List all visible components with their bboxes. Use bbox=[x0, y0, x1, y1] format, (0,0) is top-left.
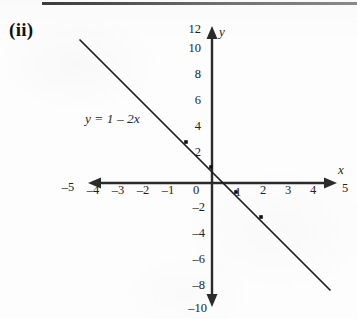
equation-annotation: y = 1 – 2x bbox=[83, 111, 140, 126]
x-tick-label: 2 bbox=[260, 183, 266, 197]
x-tick-label: –4 bbox=[86, 183, 100, 197]
x-tick-label: –2 bbox=[136, 183, 150, 197]
y-tick-label: –2 bbox=[192, 200, 206, 214]
y-tick-label: 10 bbox=[189, 41, 202, 55]
data-point-marker bbox=[234, 190, 238, 194]
y-tick-label: 12 bbox=[189, 22, 202, 36]
x-tick-label: 5 bbox=[342, 181, 348, 195]
x-tick-label: 3 bbox=[285, 183, 291, 197]
y-tick-label: –10 bbox=[187, 301, 207, 315]
coordinate-plot: –5 –4 –3 –2 –1 0 1 2 3 4 5 12 10 8 6 4 2… bbox=[0, 0, 357, 319]
x-tick-label: –3 bbox=[111, 183, 125, 197]
y-tick-label: 4 bbox=[195, 119, 202, 133]
x-tick-label: –5 bbox=[61, 180, 75, 194]
y-tick-label: –8 bbox=[192, 278, 206, 292]
x-tick-label: –1 bbox=[161, 183, 175, 197]
x-tick-label-origin: 0 bbox=[193, 183, 199, 197]
data-point-marker bbox=[184, 140, 188, 144]
plotted-line bbox=[80, 40, 330, 290]
graph-figure: (ii) –5 –4 –3 –2 –1 0 1 2 3 4 5 12 10 8 … bbox=[0, 0, 357, 319]
x-tick-label: 4 bbox=[310, 183, 317, 197]
y-tick-label: –6 bbox=[192, 252, 206, 266]
data-point-marker bbox=[209, 165, 213, 169]
y-axis-down-arrow bbox=[207, 294, 218, 307]
y-tick-label: 6 bbox=[195, 93, 201, 107]
y-tick-label: 8 bbox=[195, 67, 201, 81]
y-tick-label: –4 bbox=[192, 226, 206, 240]
x-axis-right-arrow bbox=[324, 178, 337, 189]
line-series-y-equals-1-minus-2x bbox=[80, 40, 330, 290]
y-axis-up-arrow bbox=[207, 26, 218, 39]
y-axis-letter: y bbox=[217, 24, 225, 39]
x-axis-letter: x bbox=[337, 162, 344, 177]
data-point-marker bbox=[259, 215, 263, 219]
